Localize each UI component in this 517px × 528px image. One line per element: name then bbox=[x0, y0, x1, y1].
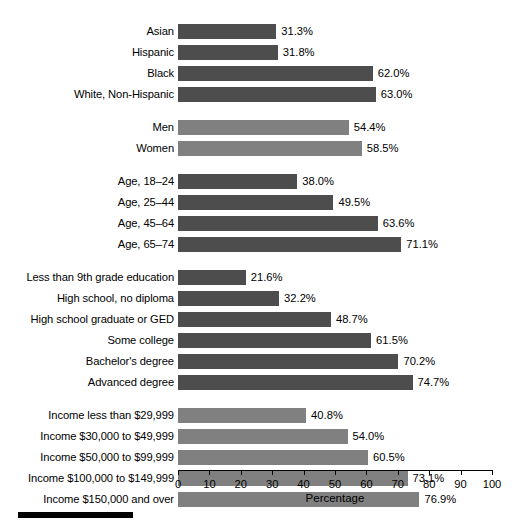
bar bbox=[178, 45, 278, 60]
bar-value-label: 58.5% bbox=[367, 141, 399, 156]
bar-track: 63.6% bbox=[178, 216, 517, 231]
category-label: Income less than $29,999 bbox=[0, 408, 174, 423]
bar-track: 70.2% bbox=[178, 354, 517, 369]
category-label: White, Non-Hispanic bbox=[0, 87, 174, 102]
bar-track: 31.3% bbox=[178, 24, 517, 39]
bar-value-label: 21.6% bbox=[251, 270, 283, 285]
bar-track: 21.6% bbox=[178, 270, 517, 285]
bar-track: 49.5% bbox=[178, 195, 517, 210]
bar-row: Some college61.5% bbox=[0, 333, 517, 348]
x-tick-label: 100 bbox=[472, 477, 512, 491]
bar bbox=[178, 66, 373, 81]
x-tick bbox=[398, 470, 399, 475]
category-label: Age, 45–64 bbox=[0, 216, 174, 231]
bar-track: 58.5% bbox=[178, 141, 517, 156]
x-axis-title: Percentage bbox=[178, 492, 492, 504]
category-label: Some college bbox=[0, 333, 174, 348]
bar bbox=[178, 429, 348, 444]
bar-row: Age, 18–2438.0% bbox=[0, 174, 517, 189]
bar bbox=[178, 216, 378, 231]
category-label: Men bbox=[0, 120, 174, 135]
category-label: Income $50,000 to $99,999 bbox=[0, 450, 174, 465]
horizontal-bar-chart: Asian31.3%Hispanic31.8%Black62.0%White, … bbox=[0, 0, 517, 528]
x-tick bbox=[178, 470, 179, 475]
bar-track: 48.7% bbox=[178, 312, 517, 327]
bottom-rule bbox=[18, 512, 133, 518]
category-label: High school graduate or GED bbox=[0, 312, 174, 327]
bar bbox=[178, 354, 398, 369]
category-label: High school, no diploma bbox=[0, 291, 174, 306]
category-label: Hispanic bbox=[0, 45, 174, 60]
bar-value-label: 32.2% bbox=[284, 291, 316, 306]
bar-row: Hispanic31.8% bbox=[0, 45, 517, 60]
bar-value-label: 54.4% bbox=[354, 120, 386, 135]
bar bbox=[178, 333, 371, 348]
bar bbox=[178, 408, 306, 423]
category-label: Income $150,000 and over bbox=[0, 492, 174, 507]
bar-row: Age, 25–4449.5% bbox=[0, 195, 517, 210]
bar-row: Advanced degree74.7% bbox=[0, 375, 517, 390]
bar-row: High school graduate or GED48.7% bbox=[0, 312, 517, 327]
bar-track: 40.8% bbox=[178, 408, 517, 423]
bar-row: Income $30,000 to $49,99954.0% bbox=[0, 429, 517, 444]
bar bbox=[178, 24, 276, 39]
bar-value-label: 70.2% bbox=[403, 354, 435, 369]
category-label: Income $30,000 to $49,999 bbox=[0, 429, 174, 444]
bar-value-label: 74.7% bbox=[418, 375, 450, 390]
bar-value-label: 31.3% bbox=[281, 24, 313, 39]
bar-row: High school, no diploma32.2% bbox=[0, 291, 517, 306]
bar bbox=[178, 195, 333, 210]
bar-row: Less than 9th grade education21.6% bbox=[0, 270, 517, 285]
bar-track: 54.4% bbox=[178, 120, 517, 135]
bar-row: Age, 45–6463.6% bbox=[0, 216, 517, 231]
x-tick bbox=[272, 470, 273, 475]
bar-track: 62.0% bbox=[178, 66, 517, 81]
category-label: Advanced degree bbox=[0, 375, 174, 390]
bar-track: 31.8% bbox=[178, 45, 517, 60]
x-tick bbox=[492, 470, 493, 475]
x-tick bbox=[366, 470, 367, 475]
bar-value-label: 61.5% bbox=[376, 333, 408, 348]
bar-value-label: 63.6% bbox=[383, 216, 415, 231]
bar-row: Income less than $29,99940.8% bbox=[0, 408, 517, 423]
category-label: Black bbox=[0, 66, 174, 81]
bar-row: Black62.0% bbox=[0, 66, 517, 81]
x-tick bbox=[304, 470, 305, 475]
category-label: Asian bbox=[0, 24, 174, 39]
bar-track: 54.0% bbox=[178, 429, 517, 444]
bar bbox=[178, 450, 368, 465]
bar-track: 32.2% bbox=[178, 291, 517, 306]
category-label: Women bbox=[0, 141, 174, 156]
bar-value-label: 54.0% bbox=[353, 429, 385, 444]
bar bbox=[178, 237, 401, 252]
category-label: Income $100,000 to $149,999 bbox=[0, 471, 174, 486]
bar bbox=[178, 141, 362, 156]
category-label: Age, 25–44 bbox=[0, 195, 174, 210]
x-tick bbox=[461, 470, 462, 475]
bar-value-label: 48.7% bbox=[336, 312, 368, 327]
bar bbox=[178, 312, 331, 327]
bar-value-label: 49.5% bbox=[338, 195, 370, 210]
x-tick bbox=[209, 470, 210, 475]
bar-row: White, Non-Hispanic63.0% bbox=[0, 87, 517, 102]
bar-row: Age, 65–7471.1% bbox=[0, 237, 517, 252]
bar-value-label: 60.5% bbox=[373, 450, 405, 465]
bar bbox=[178, 291, 279, 306]
bar bbox=[178, 120, 349, 135]
bar-row: Income $50,000 to $99,99960.5% bbox=[0, 450, 517, 465]
bar-track: 71.1% bbox=[178, 237, 517, 252]
bar-row: Asian31.3% bbox=[0, 24, 517, 39]
bar-track: 38.0% bbox=[178, 174, 517, 189]
bar bbox=[178, 87, 376, 102]
x-tick bbox=[429, 470, 430, 475]
bar-row: Women58.5% bbox=[0, 141, 517, 156]
bar-value-label: 62.0% bbox=[378, 66, 410, 81]
bar-value-label: 71.1% bbox=[406, 237, 438, 252]
x-tick bbox=[335, 470, 336, 475]
bar-row: Bachelor's degree70.2% bbox=[0, 354, 517, 369]
bar bbox=[178, 174, 297, 189]
category-label: Less than 9th grade education bbox=[0, 270, 174, 285]
bar bbox=[178, 375, 413, 390]
bar-track: 61.5% bbox=[178, 333, 517, 348]
category-label: Bachelor's degree bbox=[0, 354, 174, 369]
